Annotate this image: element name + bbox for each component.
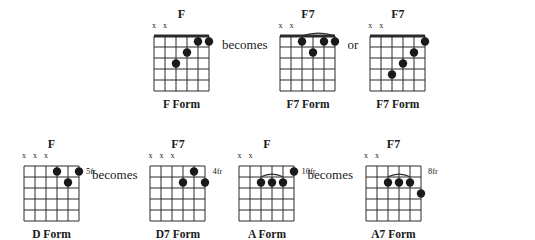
- finger-dot: [183, 48, 191, 56]
- finger-dot: [410, 48, 418, 56]
- finger-dot: [320, 37, 328, 45]
- chord-progression-row-top: FxxF FormbecomesF7xxF7 FormorF7xxF7 Form: [148, 8, 453, 111]
- muted-string-markers: xxx: [144, 152, 211, 162]
- chord-group: Fxxx5frD Form: [18, 138, 85, 240]
- muted-string-x-icon: x: [44, 151, 48, 160]
- finger-dot: [298, 37, 306, 45]
- fretboard-container: 4fr: [144, 162, 211, 225]
- chord-form-label: A7 Form: [371, 228, 415, 240]
- chord-group: FxxF Form: [148, 8, 215, 111]
- muted-string-markers: xxx: [18, 152, 85, 162]
- chord-group: F7xxF7 Form: [364, 8, 431, 111]
- muted-string-x-icon: x: [163, 21, 167, 30]
- chord-name-label: F7: [301, 8, 314, 22]
- chord-group: Fxx10frA Form: [233, 138, 300, 240]
- finger-dot: [53, 167, 61, 175]
- chord-form-label: F7 Form: [376, 98, 419, 111]
- muted-string-x-icon: x: [248, 151, 252, 160]
- fret-position-label: 4fr: [212, 167, 222, 176]
- muted-string-markers: xx: [364, 22, 431, 32]
- connector-text: becomes: [222, 38, 267, 52]
- muted-string-x-icon: x: [289, 21, 293, 30]
- finger-dot: [179, 178, 187, 186]
- fretboard-container: 5fr: [18, 162, 85, 225]
- chord-group: F7xx8frA7 Form: [360, 138, 427, 240]
- chord-form-label: F7 Form: [286, 98, 329, 111]
- muted-string-x-icon: x: [278, 21, 282, 30]
- finger-dot: [257, 178, 265, 186]
- finger-dot: [190, 167, 198, 175]
- finger-dot: [201, 178, 209, 186]
- muted-string-x-icon: x: [368, 21, 372, 30]
- fret-position-label: 10fr: [301, 167, 315, 176]
- fretboard-diagram: [274, 32, 341, 95]
- fret-position-label: 5fr: [86, 167, 96, 176]
- fretboard-container: 10fr: [233, 162, 300, 225]
- finger-dot: [384, 178, 392, 186]
- muted-string-x-icon: x: [33, 151, 37, 160]
- chord-diagram: F7xx8frA7 Form: [360, 138, 427, 240]
- fretboard-container: 8fr: [360, 162, 427, 225]
- muted-string-x-icon: x: [148, 151, 152, 160]
- chord-diagram: Fxx10frA Form: [233, 138, 300, 240]
- fretboard-container: [148, 32, 215, 95]
- muted-string-x-icon: x: [22, 151, 26, 160]
- chord-form-label: F Form: [163, 98, 200, 111]
- chord-form-label: D7 Form: [156, 228, 200, 240]
- chord-name-label: F7: [387, 138, 400, 152]
- connector-text: becomes: [92, 168, 137, 182]
- finger-dot: [205, 37, 213, 45]
- fretboard-container: [364, 32, 431, 95]
- chord-group: F7xxF7 Form: [274, 8, 341, 111]
- chord-group: F7xxx4frD7 Form: [144, 138, 211, 240]
- muted-string-x-icon: x: [170, 151, 174, 160]
- muted-string-markers: xx: [233, 152, 300, 162]
- chord-name-label: F: [48, 138, 55, 152]
- finger-dot: [268, 178, 276, 186]
- muted-string-x-icon: x: [375, 151, 379, 160]
- chord-name-label: F7: [171, 138, 184, 152]
- chord-form-label: D Form: [32, 228, 71, 240]
- finger-dot: [421, 37, 429, 45]
- chord-form-label: A Form: [248, 228, 286, 240]
- chord-name-label: F7: [391, 8, 404, 22]
- finger-dot: [406, 178, 414, 186]
- muted-string-markers: xx: [148, 22, 215, 32]
- chord-diagram: F7xxx4frD7 Form: [144, 138, 211, 240]
- connector-text: or: [347, 38, 358, 52]
- chord-progression-row-bottom: Fxxx5frD FormbecomesF7xxx4frD7 FormFxx10…: [18, 138, 449, 240]
- chord-diagram: F7xxF7 Form: [274, 8, 341, 111]
- fretboard-container: [274, 32, 341, 95]
- finger-dot: [331, 37, 339, 45]
- fretboard-diagram: [360, 162, 427, 225]
- fretboard-diagram: [18, 162, 85, 225]
- finger-dot: [395, 178, 403, 186]
- fretboard-diagram: [148, 32, 215, 95]
- finger-dot: [279, 178, 287, 186]
- fretboard-diagram: [233, 162, 300, 225]
- chord-name-label: F: [178, 8, 185, 22]
- finger-dot: [417, 189, 425, 197]
- finger-dot: [399, 59, 407, 67]
- chord-diagram: F7xxF7 Form: [364, 8, 431, 111]
- muted-string-x-icon: x: [237, 151, 241, 160]
- finger-dot: [75, 167, 83, 175]
- fretboard-diagram: [364, 32, 431, 95]
- finger-dot: [172, 59, 180, 67]
- finger-dot: [388, 70, 396, 78]
- muted-string-x-icon: x: [379, 21, 383, 30]
- chord-name-label: F: [263, 138, 270, 152]
- muted-string-x-icon: x: [364, 151, 368, 160]
- muted-string-x-icon: x: [159, 151, 163, 160]
- fret-position-label: 8fr: [428, 167, 438, 176]
- finger-dot: [64, 178, 72, 186]
- finger-dot: [290, 167, 298, 175]
- muted-string-x-icon: x: [152, 21, 156, 30]
- muted-string-markers: xx: [274, 22, 341, 32]
- finger-dot: [309, 48, 317, 56]
- muted-string-markers: xx: [360, 152, 427, 162]
- fretboard-diagram: [144, 162, 211, 225]
- chord-diagram: Fxxx5frD Form: [18, 138, 85, 240]
- finger-dot: [194, 37, 202, 45]
- chord-diagram: FxxF Form: [148, 8, 215, 111]
